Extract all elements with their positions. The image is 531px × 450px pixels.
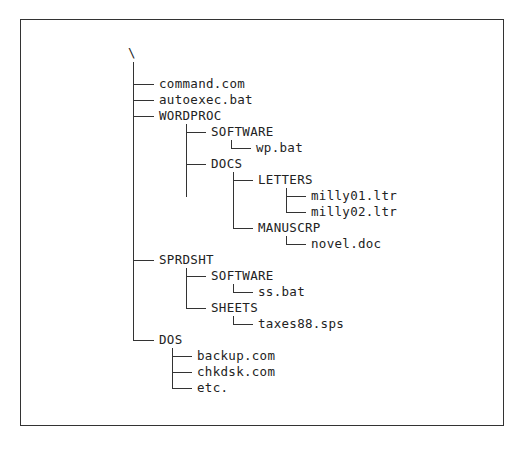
file-ss-bat: ss.bat	[258, 285, 305, 299]
branch-line	[134, 116, 154, 117]
branch-line	[233, 180, 253, 181]
branch-line	[186, 308, 206, 309]
branch-line	[134, 100, 154, 101]
branch-line	[186, 276, 206, 277]
branch-line	[286, 244, 306, 245]
file-novel-doc: novel.doc	[311, 237, 381, 251]
dir-letters: LETTERS	[258, 173, 313, 187]
branch-line	[172, 372, 192, 373]
file-chkdsk-com: chkdsk.com	[197, 365, 275, 379]
dir-sheets: SHEETS	[211, 301, 258, 315]
file-etc: etc.	[197, 381, 228, 395]
file-autoexec-bat: autoexec.bat	[159, 93, 253, 107]
branch-line	[233, 292, 253, 293]
branch-line	[233, 324, 253, 325]
dir-docs: DOCS	[211, 157, 242, 171]
letters-line	[286, 188, 287, 213]
dir-sprdsht: SPRDSHT	[159, 253, 214, 267]
sprdsht-line	[186, 268, 187, 309]
root-node: \	[128, 46, 136, 60]
branch-line	[134, 340, 154, 341]
branch-line	[134, 260, 154, 261]
branch-line	[233, 228, 253, 229]
branch-line	[286, 212, 306, 213]
branch-line	[186, 132, 206, 133]
branch-line	[186, 164, 206, 165]
branch-line	[286, 196, 306, 197]
wordproc-line	[186, 124, 187, 197]
file-command-com: command.com	[159, 77, 245, 91]
dir-manuscrp: MANUSCRP	[258, 221, 321, 235]
file-backup-com: backup.com	[197, 349, 275, 363]
dir-wordproc: WORDPROC	[159, 109, 222, 123]
branch-line	[172, 356, 192, 357]
branch-line	[172, 388, 192, 389]
branch-line	[231, 148, 251, 149]
dir-wordproc-software: SOFTWARE	[211, 125, 274, 139]
file-milly01: milly01.ltr	[311, 189, 397, 203]
file-taxes88-sps: taxes88.sps	[258, 317, 344, 331]
file-milly02: milly02.ltr	[311, 205, 397, 219]
dos-line	[172, 348, 173, 389]
file-wp-bat: wp.bat	[256, 141, 303, 155]
dir-sprdsht-software: SOFTWARE	[211, 269, 274, 283]
dir-dos: DOS	[159, 333, 182, 347]
trunk-line	[133, 62, 134, 341]
branch-line	[134, 84, 154, 85]
